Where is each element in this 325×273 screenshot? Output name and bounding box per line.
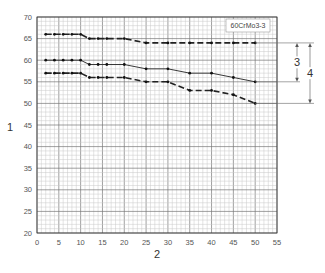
data-point: [44, 59, 47, 62]
y-tick-label: 40: [24, 142, 32, 151]
x-tick-label: 5: [57, 238, 61, 247]
y-tick-label: 70: [24, 13, 32, 22]
data-point: [105, 76, 108, 79]
data-point: [232, 76, 235, 79]
y-tick-label: 50: [24, 99, 32, 108]
data-point: [145, 42, 148, 45]
data-point: [210, 42, 213, 45]
data-point: [167, 67, 170, 70]
data-point: [62, 59, 65, 62]
x-tick-label: 30: [164, 238, 172, 247]
data-point: [88, 76, 91, 79]
data-point: [105, 63, 108, 66]
data-point: [145, 80, 148, 83]
y-tick-label: 45: [24, 121, 32, 130]
legend-label: 60CrMo3-3: [230, 22, 265, 29]
data-point: [232, 93, 235, 96]
x-tick-label: 40: [207, 238, 215, 247]
data-point: [79, 72, 82, 75]
annotation-label: 4: [307, 67, 313, 79]
data-point: [79, 59, 82, 62]
y-tick-label: 30: [24, 185, 32, 194]
data-point: [88, 63, 91, 66]
data-point: [210, 72, 213, 75]
data-point: [53, 59, 56, 62]
data-point: [97, 76, 100, 79]
data-point: [167, 80, 170, 83]
data-point: [71, 59, 74, 62]
y-tick-label: 60: [24, 56, 32, 65]
data-point: [210, 89, 213, 92]
x-tick-label: 0: [35, 238, 39, 247]
data-point: [79, 33, 82, 36]
x-axis-label: 2: [154, 248, 160, 260]
x-tick-label: 35: [186, 238, 194, 247]
data-point: [145, 67, 148, 70]
data-point: [71, 33, 74, 36]
data-point: [123, 76, 126, 79]
data-point: [97, 37, 100, 40]
x-tick-label: 15: [98, 238, 106, 247]
data-point: [188, 72, 191, 75]
data-point: [62, 72, 65, 75]
axis-ticks: 0510152025303540455055202530354045505560…: [24, 13, 282, 248]
data-point: [123, 63, 126, 66]
data-point: [44, 33, 47, 36]
y-tick-label: 35: [24, 164, 32, 173]
data-point: [123, 37, 126, 40]
y-tick-label: 65: [24, 34, 32, 43]
y-tick-label: 20: [24, 229, 32, 238]
x-tick-label: 50: [251, 238, 259, 247]
data-point: [88, 37, 91, 40]
x-tick-label: 25: [142, 238, 150, 247]
data-point: [62, 33, 65, 36]
x-tick-label: 45: [229, 238, 237, 247]
data-point: [97, 63, 100, 66]
y-tick-label: 55: [24, 77, 32, 86]
data-point: [232, 42, 235, 45]
chart: 0510152025303540455055202530354045505560…: [0, 0, 325, 273]
data-point: [188, 89, 191, 92]
data-point: [71, 72, 74, 75]
data-point: [167, 42, 170, 45]
x-tick-label: 10: [76, 238, 84, 247]
data-point: [44, 72, 47, 75]
x-tick-label: 20: [120, 238, 128, 247]
data-point: [53, 33, 56, 36]
data-point: [188, 42, 191, 45]
x-tick-label: 55: [273, 238, 281, 247]
data-point: [105, 37, 108, 40]
data-point: [53, 72, 56, 75]
y-tick-label: 25: [24, 207, 32, 216]
plot-grid: [37, 17, 277, 233]
annotation-label: 3: [294, 56, 300, 68]
y-axis-label: 1: [7, 121, 13, 133]
